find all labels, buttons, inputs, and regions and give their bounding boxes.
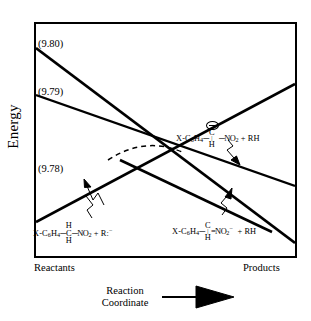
formula-reactant-suffix-charge: −: [109, 227, 113, 234]
equation-number-979: (9.79): [38, 86, 63, 97]
formula-reactant-suffix: + R:: [94, 229, 109, 238]
formula-intermediate-bond2: ─NO: [219, 134, 236, 143]
formula-intermediate: X-C6H4─C|H─NO2 + RH: [176, 121, 260, 148]
formula-intermediate-prefix: X-C: [176, 134, 191, 143]
formula-reactant-sub3: 2: [88, 231, 91, 238]
y-axis-label: Energy: [5, 92, 22, 162]
formula-intermediate-center-bottom: H: [209, 141, 215, 149]
axis-label-reactants: Reactants: [34, 262, 75, 273]
diagram-canvas: Energy: [0, 0, 311, 321]
equation-number-980: (9.80): [38, 38, 63, 49]
formula-reactant: X-C6H4─HCH─NO2 + R:−: [33, 222, 113, 245]
equation-number-978: (9.78): [38, 163, 63, 174]
reaction-coordinate-arrow: [162, 286, 234, 308]
formula-product-center-stack: C|H: [205, 222, 211, 241]
axis-label-products: Products: [243, 262, 280, 273]
formula-product-suffix: + RH: [237, 227, 256, 236]
formula-product-bond2: =NO: [211, 227, 226, 236]
reaction-coordinate-caption: Reaction Coordinate: [92, 285, 158, 309]
minus-charge-icon: [206, 121, 219, 130]
reaction-coordinate-caption-line1: Reaction: [92, 285, 158, 297]
formula-intermediate-center-stack: C|H: [209, 129, 215, 148]
reaction-coordinate-caption-line2: Coordinate: [92, 297, 158, 309]
formula-reactant-prefix: X-C: [33, 229, 48, 238]
formula-intermediate-sub3: 2: [235, 136, 238, 143]
formula-product: X-C6H4─C|H=NO2− + RH: [172, 222, 256, 241]
formula-reactant-center-bottom: H: [66, 237, 72, 245]
formula-product-center-bottom: H: [205, 234, 211, 242]
formula-reactant-center-stack: HCH: [66, 222, 72, 245]
formula-product-charge: −: [229, 225, 233, 232]
formula-reactant-bond2: ─NO: [72, 229, 89, 238]
formula-intermediate-suffix: + RH: [241, 134, 260, 143]
formula-product-prefix: X-C: [172, 227, 187, 236]
